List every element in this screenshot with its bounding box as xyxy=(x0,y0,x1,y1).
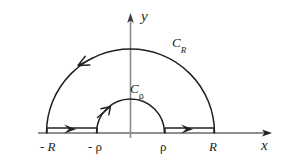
curve-label-Crho-subscript: ρ xyxy=(139,90,144,101)
curve-label-Crho-base: C xyxy=(130,81,139,96)
arc-CR-direction-arrowhead xyxy=(78,56,94,65)
curve-label-CR: CR xyxy=(172,36,186,53)
contour-graphics xyxy=(0,0,283,161)
curve-label-CR-subscript: R xyxy=(181,45,187,55)
axis-point-label-minus-R: - R xyxy=(40,140,56,153)
axis-point-label-rho: ρ xyxy=(160,140,167,153)
axis-point-label-minus-rho: - ρ xyxy=(88,140,102,153)
segment-left-arrowhead xyxy=(64,125,76,134)
segment-left xyxy=(47,125,97,134)
axis-point-label-R: R xyxy=(209,140,217,153)
segment-right xyxy=(165,125,214,134)
y-axis-label: y xyxy=(141,9,148,24)
curve-label-Crho: Cρ xyxy=(130,82,144,99)
curve-label-CR-base: C xyxy=(172,35,181,50)
segment-right-arrowhead xyxy=(181,125,193,134)
contour-diagram: y x CR Cρ - R - ρ ρ R xyxy=(0,0,283,161)
x-axis-label: x xyxy=(261,138,268,153)
arc-Crho-direction-arrowhead xyxy=(98,107,111,118)
